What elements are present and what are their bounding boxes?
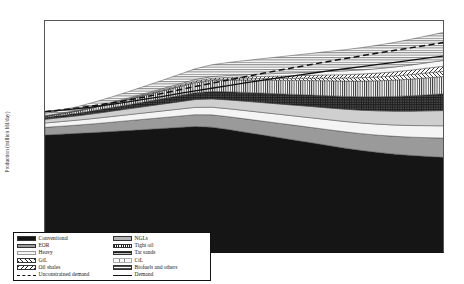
x-tick-mark xyxy=(245,252,246,253)
legend-item[interactable]: Biofuels and others xyxy=(113,264,177,271)
legend-label: Heavy xyxy=(39,250,53,256)
legend-label: CtL xyxy=(135,258,144,264)
legend-item[interactable]: NGLs xyxy=(113,235,177,242)
y-tick-mark xyxy=(44,87,45,88)
legend-item[interactable]: Conventional xyxy=(17,235,113,242)
x-tick-mark xyxy=(362,252,363,253)
dashed-line-swatch xyxy=(17,272,36,277)
x-tick-mark xyxy=(262,252,263,253)
legend-item[interactable]: Oil shales xyxy=(17,264,113,271)
legend-item[interactable]: EOR xyxy=(17,243,113,250)
x-tick-mark xyxy=(378,252,379,253)
diagonal-hatch-swatch xyxy=(17,258,36,263)
legend-item[interactable]: Demand xyxy=(113,271,177,278)
vertical-line-swatch xyxy=(113,244,132,249)
x-tick-mark xyxy=(328,252,329,253)
y-tick-mark xyxy=(44,220,45,221)
legend-item[interactable]: Tar sands xyxy=(113,250,177,257)
chart-figure: Production (million bbl/day) xyxy=(0,0,464,284)
legend-label: Biofuels and others xyxy=(135,265,178,271)
legend-item[interactable]: GtL xyxy=(17,257,113,264)
y-tick-mark xyxy=(44,187,45,188)
x-tick-mark xyxy=(345,252,346,253)
x-tick-mark xyxy=(412,252,413,253)
legend-label: NGLs xyxy=(135,236,148,242)
plot-area: 020406080100120140 200720082009201020112… xyxy=(44,20,444,253)
legend-item[interactable]: Tight oil xyxy=(113,243,177,250)
solid-lightgray-swatch xyxy=(17,244,36,249)
solid-gray-swatch xyxy=(113,236,132,241)
legend-item[interactable]: CtL xyxy=(113,257,177,264)
y-tick-mark xyxy=(44,54,45,55)
x-tick-mark xyxy=(295,252,296,253)
legend-label: Demand xyxy=(135,272,154,278)
chart-legend: ConventionalEORHeavyGtLOil shalesUnconst… xyxy=(13,232,211,281)
legend-label: Unconstrained demand xyxy=(39,272,90,278)
legend-column-left: ConventionalEORHeavyGtLOil shalesUnconst… xyxy=(17,235,113,278)
y-tick-mark xyxy=(44,21,45,22)
legend-label: EOR xyxy=(39,243,50,249)
legend-label: Tight oil xyxy=(135,243,154,249)
legend-label: Oil shales xyxy=(39,265,61,271)
stacked-area-svg xyxy=(45,21,444,253)
x-tick-mark xyxy=(228,252,229,253)
legend-label: Conventional xyxy=(39,236,69,242)
legend-label: GtL xyxy=(39,258,48,264)
solid-verylight-swatch xyxy=(17,251,36,256)
legend-column-right: NGLsTight oilTar sandsCtLBiofuels and ot… xyxy=(113,235,177,278)
area-layers xyxy=(45,32,444,253)
solid-line-swatch xyxy=(113,272,132,277)
fine-dot-swatch xyxy=(113,258,132,263)
y-tick-mark xyxy=(44,120,45,121)
x-tick-mark xyxy=(395,252,396,253)
horizontal-line-swatch xyxy=(113,265,132,270)
x-tick-mark xyxy=(212,252,213,253)
legend-label: Tar sands xyxy=(135,250,156,256)
x-tick-mark xyxy=(428,252,429,253)
legend-item[interactable]: Heavy xyxy=(17,250,113,257)
solid-black-swatch xyxy=(17,236,36,241)
cross-hatch-swatch xyxy=(17,265,36,270)
x-tick-mark xyxy=(278,252,279,253)
y-tick-mark xyxy=(44,154,45,155)
dark-dotted-swatch xyxy=(113,251,132,256)
legend-item[interactable]: Unconstrained demand xyxy=(17,271,113,278)
y-axis-title: Production (million bbl/day) xyxy=(0,0,14,284)
x-tick-mark xyxy=(312,252,313,253)
